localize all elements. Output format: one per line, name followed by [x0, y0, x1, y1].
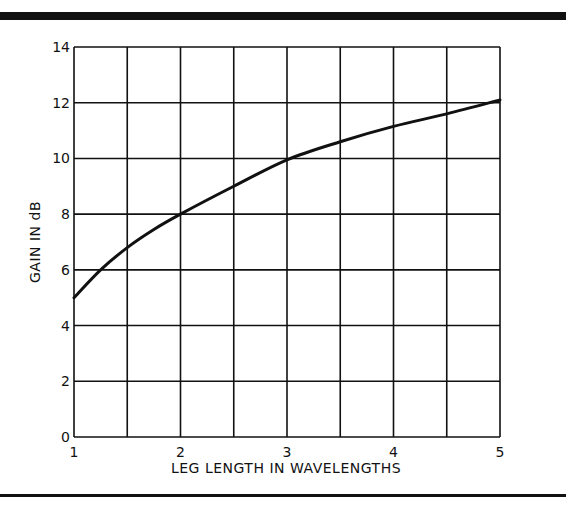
- y-axis-label: GAIN IN dB: [27, 201, 43, 283]
- y-tick-label: 2: [61, 373, 70, 389]
- y-tick-labels: 02468101214: [52, 39, 70, 445]
- x-tick-label: 2: [176, 444, 185, 460]
- y-tick-label: 14: [52, 39, 70, 55]
- y-tick-label: 6: [61, 262, 70, 278]
- y-tick-label: 4: [61, 318, 70, 334]
- x-tick-label: 3: [283, 444, 292, 460]
- grid: [74, 47, 500, 437]
- y-tick-label: 12: [52, 95, 70, 111]
- y-tick-label: 8: [61, 206, 70, 222]
- x-tick-label: 5: [496, 444, 505, 460]
- x-tick-labels: 12345: [70, 444, 505, 460]
- x-tick-label: 4: [389, 444, 398, 460]
- x-axis-label: LEG LENGTH IN WAVELENGTHS: [171, 460, 401, 476]
- x-tick-label: 1: [70, 444, 79, 460]
- y-tick-label: 10: [52, 150, 70, 166]
- y-tick-label: 0: [61, 429, 70, 445]
- gain-chart: 02468101214 12345 LEG LENGTH IN WAVELENG…: [0, 0, 566, 509]
